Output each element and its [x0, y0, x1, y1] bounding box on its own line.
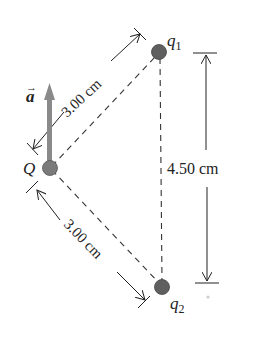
- lower-distance-label: 3.00 cm: [61, 216, 106, 262]
- speck: [207, 296, 210, 299]
- charge-diagram: 3.00 cm 3.00 cm 4.50 cm a → q1 Q q2: [0, 0, 259, 342]
- charge-Q: [43, 161, 58, 176]
- vector-arrow-icon: →: [26, 81, 37, 93]
- charge-Q-label: Q: [23, 159, 35, 178]
- dashed-triangle: [52, 56, 162, 283]
- charge-q1-label: q1: [167, 31, 182, 53]
- vertical-distance-label: 4.50 cm: [167, 160, 219, 177]
- charge-q1: [152, 45, 167, 60]
- charge-q2: [155, 280, 170, 295]
- charge-q2-label: q2: [170, 294, 185, 316]
- acceleration-arrow: [44, 83, 55, 162]
- upper-distance-label: 3.00 cm: [58, 75, 104, 120]
